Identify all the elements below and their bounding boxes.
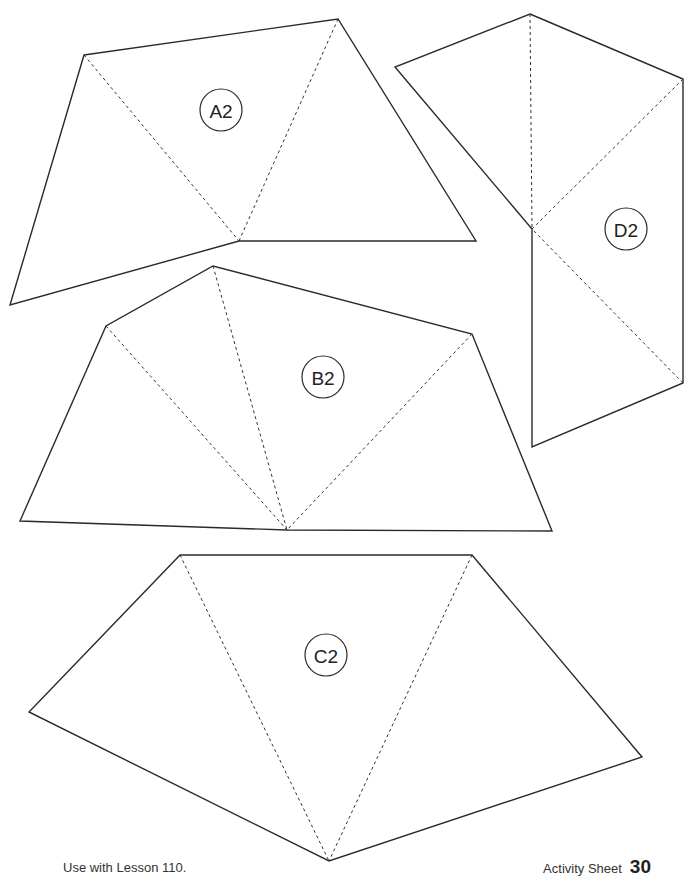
shape-b2-outline bbox=[20, 266, 552, 531]
shape-c2-fold-2 bbox=[329, 555, 472, 861]
activity-sheet-number: Activity Sheet30 bbox=[543, 856, 651, 878]
sheet-number: 30 bbox=[630, 856, 651, 877]
shape-d2: D2 bbox=[395, 14, 683, 447]
shape-c2: C2 bbox=[29, 555, 642, 861]
shape-d2-fold-3 bbox=[532, 229, 683, 383]
shape-c2-fold-1 bbox=[180, 555, 329, 861]
shape-a2-fold-1 bbox=[84, 55, 239, 241]
lesson-note: Use with Lesson 110. bbox=[63, 860, 186, 875]
shape-c2-label: C2 bbox=[314, 646, 338, 667]
shape-b2-fold-2 bbox=[213, 266, 287, 530]
shape-d2-fold-2 bbox=[532, 79, 683, 229]
shape-d2-fold-1 bbox=[530, 14, 532, 229]
shape-d2-label: D2 bbox=[614, 220, 638, 241]
shape-a2-fold-2 bbox=[239, 19, 338, 241]
shape-a2-label: A2 bbox=[209, 101, 232, 122]
activity-sheet-label: Activity Sheet bbox=[543, 861, 622, 876]
activity-sheet-canvas: A2 B2 C2 D2 bbox=[0, 0, 688, 880]
shape-b2: B2 bbox=[20, 266, 552, 531]
shape-c2-outline bbox=[29, 555, 642, 861]
shape-b2-label: B2 bbox=[311, 368, 334, 389]
shape-b2-fold-1 bbox=[106, 326, 287, 530]
